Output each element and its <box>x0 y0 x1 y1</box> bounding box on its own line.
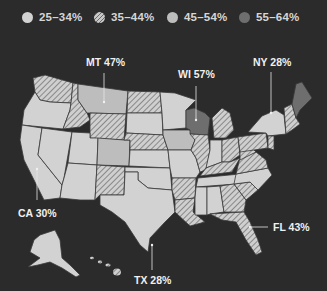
callout-wi: WI 57% <box>178 68 215 80</box>
state-wy <box>90 113 126 140</box>
us-map <box>0 0 327 291</box>
state-fl <box>210 212 262 255</box>
state-ar <box>172 178 196 200</box>
state-wi <box>186 108 210 135</box>
state-sd <box>126 113 163 135</box>
state-ne <box>124 133 168 150</box>
state-ms <box>195 187 207 215</box>
state-hi <box>90 257 121 276</box>
state-mt <box>78 84 128 114</box>
state-ks <box>129 150 170 168</box>
callout-ca: CA 30% <box>18 207 57 219</box>
state-ny <box>248 110 286 136</box>
callout-fl: FL 43% <box>273 221 310 233</box>
callout-mt: MT 47% <box>86 56 125 68</box>
state-co <box>97 138 130 166</box>
state-mi <box>212 108 234 138</box>
callout-tx: TX 28% <box>134 274 171 286</box>
state-ak <box>28 230 80 277</box>
state-oh <box>222 137 240 162</box>
state-pa <box>238 133 268 152</box>
callout-ny: NY 28% <box>253 56 291 68</box>
state-nd <box>127 91 162 113</box>
state-nj <box>268 136 274 150</box>
state-me <box>292 82 312 118</box>
